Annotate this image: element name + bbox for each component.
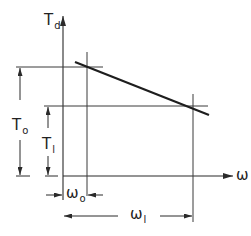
- t1-label: Tl: [42, 136, 55, 152]
- x-axis-label-main: ω: [236, 166, 249, 184]
- y-axis-label: Td: [44, 12, 61, 28]
- y-axis-label-main: T: [44, 11, 53, 29]
- t0-label-sub: o: [22, 125, 28, 136]
- w0-label: ωo: [66, 185, 86, 201]
- t0-label-main: T: [12, 116, 21, 134]
- y-axis-label-sub: d: [54, 20, 60, 31]
- t0-label: To: [12, 117, 28, 133]
- x-axis-label: ω: [236, 167, 249, 183]
- w1-label: ωl: [130, 206, 146, 222]
- torque-speed-diagram: Td ω To Tl ωo ωl: [0, 0, 251, 236]
- w1-label-sub: l: [144, 214, 147, 225]
- t1-label-main: T: [42, 135, 51, 153]
- w1-label-main: ω: [130, 205, 143, 223]
- diagram-canvas: [0, 0, 251, 236]
- w0-label-main: ω: [66, 184, 79, 202]
- torque-characteristic-line: [75, 62, 209, 115]
- t1-label-sub: l: [52, 144, 55, 155]
- w0-label-sub: o: [80, 193, 86, 204]
